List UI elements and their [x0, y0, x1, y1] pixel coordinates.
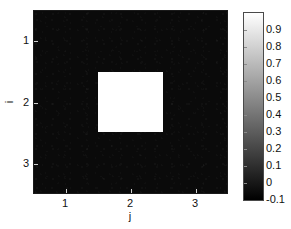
x-axis-label: j: [129, 211, 131, 222]
colorbar-tick: [244, 149, 247, 150]
x-axis-tick: [196, 189, 197, 193]
heatmap-grid: [34, 11, 227, 193]
colorbar-tick: [244, 98, 247, 99]
colorbar-tick: [244, 115, 247, 116]
colorbar[interactable]: [243, 12, 264, 201]
y-axis-tick: [34, 164, 38, 165]
colorbar-tick-label: -0.1: [266, 193, 285, 205]
x-axis-tick-label: 3: [192, 197, 198, 209]
heatmap-cell-center: [98, 72, 162, 133]
figure-canvas: 1 2 3 1 2 3 j i 0.9 0.8 0.7 0.6 0.5 0.4 …: [0, 0, 291, 229]
colorbar-tick-label: 0.2: [266, 142, 281, 154]
heatmap-cell: [98, 11, 162, 72]
colorbar-gradient: [244, 13, 263, 200]
colorbar-tick-label: 0.9: [266, 23, 281, 35]
heatmap-cell: [163, 72, 227, 133]
y-axis-tick-label: 3: [23, 157, 29, 169]
colorbar-tick: [244, 30, 247, 31]
heatmap-cell: [163, 132, 227, 193]
y-axis-tick-label: 2: [23, 96, 29, 108]
heatmap-cell: [34, 11, 98, 72]
colorbar-tick-label: 0.1: [266, 159, 281, 171]
colorbar-tick-label: 0.8: [266, 40, 281, 52]
x-axis-tick: [66, 189, 67, 193]
colorbar-tick: [244, 47, 247, 48]
colorbar-tick: [244, 81, 247, 82]
heatmap-cell: [98, 132, 162, 193]
y-axis-label: i: [4, 101, 15, 103]
colorbar-tick: [244, 64, 247, 65]
colorbar-tick-label: 0.3: [266, 125, 281, 137]
colorbar-tick-label: 0.6: [266, 74, 281, 86]
colorbar-tick: [244, 166, 247, 167]
y-axis-tick: [34, 41, 38, 42]
x-axis-tick: [131, 189, 132, 193]
colorbar-tick: [244, 200, 247, 201]
y-axis-tick-label: 1: [23, 34, 29, 46]
heatmap-axes[interactable]: [33, 10, 228, 194]
colorbar-tick-label: 0.4: [266, 108, 281, 120]
colorbar-tick-label: 0: [266, 176, 272, 188]
x-axis-tick-label: 2: [127, 197, 133, 209]
colorbar-tick-label: 0.7: [266, 57, 281, 69]
colorbar-tick: [244, 183, 247, 184]
heatmap-cell: [163, 11, 227, 72]
heatmap-cell: [34, 72, 98, 133]
x-axis-tick-label: 1: [62, 197, 68, 209]
colorbar-tick-label: 0.5: [266, 91, 281, 103]
y-axis-tick: [34, 103, 38, 104]
colorbar-tick: [244, 132, 247, 133]
heatmap-cell: [34, 132, 98, 193]
